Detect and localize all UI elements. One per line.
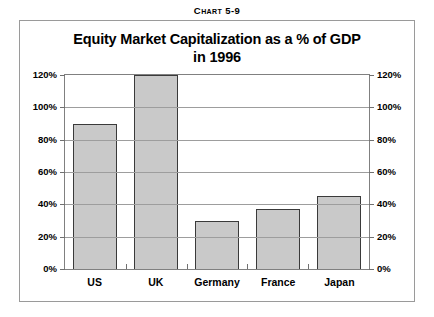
y-axis-label-right: 120% — [377, 70, 417, 80]
x-axis-label-uk: UK — [125, 276, 186, 288]
bar-japan — [317, 196, 361, 269]
axis-tick-right — [369, 269, 374, 270]
chart-frame: Equity Market Capitalization as a % of G… — [19, 20, 415, 302]
x-axis-labels: USUKGermanyFranceJapan — [64, 276, 370, 288]
y-axis-label-left: 0% — [17, 264, 57, 274]
y-axis-label-left: 100% — [17, 102, 57, 112]
y-axis-label-left: 80% — [17, 135, 57, 145]
chart-caption-rest: hart 5-9 — [201, 5, 240, 16]
gridline — [65, 172, 369, 173]
axis-tick-left — [60, 107, 65, 108]
y-axis-label-right: 20% — [377, 232, 417, 242]
axis-tick-left — [60, 269, 65, 270]
axis-tick-right — [369, 172, 374, 173]
chart-title-line-2: in 1996 — [20, 48, 414, 66]
axis-tick-right — [369, 140, 374, 141]
bar-us — [73, 124, 117, 270]
y-axis-label-right: 80% — [377, 135, 417, 145]
y-axis-label-right: 40% — [377, 199, 417, 209]
y-axis-label-left: 120% — [17, 70, 57, 80]
axis-tick-right — [369, 204, 374, 205]
chart-title: Equity Market Capitalization as a % of G… — [20, 30, 414, 66]
axis-tick-left — [60, 140, 65, 141]
y-axis-label-right: 0% — [377, 264, 417, 274]
y-axis-label-right: 100% — [377, 102, 417, 112]
y-axis-label-left: 20% — [17, 232, 57, 242]
y-axis-label-left: 60% — [17, 167, 57, 177]
bar-france — [256, 209, 300, 269]
plot-area: 0%0%20%20%40%40%60%60%80%80%100%100%120%… — [64, 74, 370, 270]
y-axis-label-right: 60% — [377, 167, 417, 177]
chart-number-caption: Chart 5-9 — [0, 5, 434, 16]
axis-tick-left — [60, 172, 65, 173]
axis-tick-right — [369, 237, 374, 238]
bar-germany — [195, 221, 239, 270]
gridline — [65, 107, 369, 108]
axis-tick-left — [60, 237, 65, 238]
y-axis-label-left: 40% — [17, 199, 57, 209]
chart-page: Chart 5-9 Equity Market Capitalization a… — [0, 0, 434, 317]
axis-tick-right — [369, 75, 374, 76]
gridline — [65, 237, 369, 238]
chart-title-line-1: Equity Market Capitalization as a % of G… — [20, 30, 414, 48]
x-axis-label-japan: Japan — [309, 276, 370, 288]
gridline — [65, 204, 369, 205]
axis-tick-left — [60, 75, 65, 76]
x-axis-label-france: France — [248, 276, 309, 288]
axis-tick-right — [369, 107, 374, 108]
axis-tick-left — [60, 204, 65, 205]
x-axis-label-us: US — [64, 276, 125, 288]
gridline — [65, 140, 369, 141]
x-axis-label-germany: Germany — [186, 276, 247, 288]
